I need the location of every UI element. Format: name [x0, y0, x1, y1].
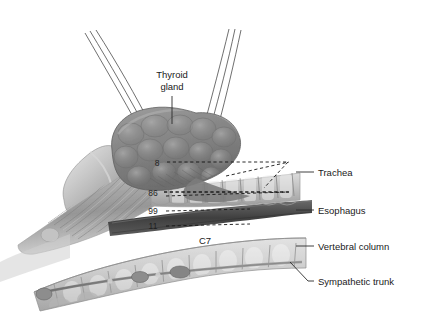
- label-vertebral-column: Vertebral column: [318, 241, 389, 252]
- ganglion: [132, 272, 149, 283]
- marker-99-value: 99: [148, 206, 158, 216]
- label-thyroid-gland-line2: gland: [160, 81, 183, 92]
- ganglion: [170, 266, 190, 278]
- marker-11-value: 11: [149, 221, 158, 231]
- anatomical-figure: 8 86 99 11 C7 Thyroid gland Trachea Esop…: [0, 0, 422, 316]
- label-vertebra-c7: C7: [199, 235, 211, 246]
- label-thyroid-gland-line1: Thyroid: [156, 69, 188, 80]
- marker-8-value: 8: [155, 158, 160, 168]
- label-trachea: Trachea: [318, 167, 353, 178]
- label-sympathetic-trunk: Sympathetic trunk: [318, 276, 394, 287]
- marker-86-value: 86: [148, 188, 158, 198]
- label-esophagus: Esophagus: [318, 205, 366, 216]
- ganglion: [36, 288, 52, 300]
